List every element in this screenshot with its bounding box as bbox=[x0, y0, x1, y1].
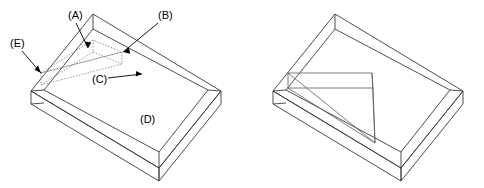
right-tray-bottom-tick bbox=[273, 103, 286, 104]
left-tray-bottom-tick bbox=[31, 103, 44, 104]
figure-container: (A) (B) (C) (D) (E) bbox=[0, 0, 484, 188]
callout-a-label: (A) bbox=[68, 9, 83, 21]
callout-d: (D) bbox=[140, 113, 155, 125]
callout-e: (E) bbox=[10, 37, 41, 73]
callout-b-label: (B) bbox=[158, 9, 173, 21]
callout-d-label: (D) bbox=[140, 113, 155, 125]
left-view: (A) (B) (C) (D) (E) bbox=[10, 9, 221, 181]
right-view bbox=[273, 14, 463, 181]
isometric-tray-diagram: (A) (B) (C) (D) (E) bbox=[0, 0, 484, 188]
callout-c-label: (C) bbox=[92, 73, 107, 85]
right-tray-top-fill bbox=[273, 14, 463, 168]
callout-e-label: (E) bbox=[10, 37, 25, 49]
left-tray-top-fill bbox=[31, 14, 221, 168]
